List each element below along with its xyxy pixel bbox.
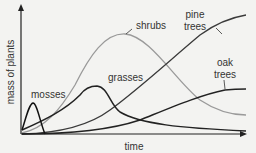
label-oak-line2: trees bbox=[214, 69, 236, 80]
label-oak-line1: oak bbox=[217, 57, 234, 68]
y-axis-label: mass of plants bbox=[5, 40, 16, 104]
label-shrubs: shrubs bbox=[136, 20, 166, 31]
label-pine-line2: trees bbox=[184, 21, 206, 32]
succession-diagram: mosses grasses shrubs pine trees oak tre… bbox=[0, 0, 256, 153]
label-mosses: mosses bbox=[31, 89, 65, 100]
label-grasses: grasses bbox=[108, 72, 143, 83]
label-pine-line1: pine bbox=[186, 9, 205, 20]
x-axis-label: time bbox=[125, 141, 144, 152]
